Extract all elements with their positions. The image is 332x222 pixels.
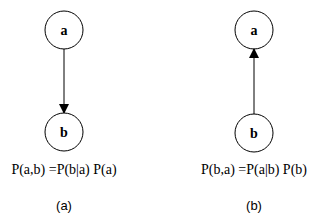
diagram-b: a b P(b,a) =P(a|b) P(b) (b)	[201, 11, 307, 213]
equation-b: P(b,a) =P(a|b) P(b)	[201, 162, 307, 178]
diagram-a: a b P(a,b) =P(b|a) P(a) (a)	[11, 11, 117, 213]
node-a-label: a	[251, 23, 258, 38]
caption-a: (a)	[56, 198, 72, 213]
equation-a: P(a,b) =P(b|a) P(a)	[11, 162, 117, 178]
node-b: b	[235, 114, 273, 152]
node-a-label: a	[61, 23, 68, 38]
node-a: a	[235, 11, 273, 49]
node-a: a	[45, 11, 83, 49]
node-b-label: b	[60, 125, 68, 140]
node-b: b	[45, 113, 83, 151]
node-b-label: b	[250, 126, 258, 141]
bayes-network-diagrams: a b P(a,b) =P(b|a) P(a) (a) a b P(b,a) =…	[0, 0, 332, 222]
caption-b: (b)	[246, 198, 262, 213]
